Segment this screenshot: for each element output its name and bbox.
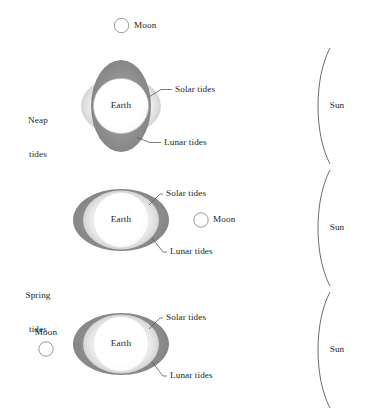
earth-label-spring-1: Earth bbox=[98, 214, 144, 225]
moon-body-neap bbox=[114, 18, 128, 32]
lunar-tides-label-spring-2: Lunar tides bbox=[170, 370, 213, 381]
moon-body-spring-1 bbox=[194, 213, 208, 227]
group-label-neap-line1: Neap bbox=[15, 115, 61, 126]
solar-tides-label-neap: Solar tides bbox=[175, 84, 215, 95]
earth-label-neap: Earth bbox=[98, 100, 144, 111]
solar-tides-label-spring-1: Solar tides bbox=[166, 188, 206, 199]
solar-tides-label-spring-2: Solar tides bbox=[166, 312, 206, 323]
earth-label-spring-2: Earth bbox=[98, 338, 144, 349]
tides-diagram: Neap tides Spring tides Moon Earth Solar… bbox=[0, 0, 367, 418]
moon-label-neap: Moon bbox=[134, 20, 156, 31]
sun-label-spring-2: Sun bbox=[322, 344, 352, 355]
group-label-neap: Neap tides bbox=[15, 92, 61, 183]
group-label-neap-line2: tides bbox=[15, 149, 61, 160]
group-label-spring-line1: Spring bbox=[10, 290, 66, 301]
lunar-tides-label-spring-1: Lunar tides bbox=[170, 246, 213, 257]
moon-label-spring-1: Moon bbox=[213, 214, 235, 225]
sun-label-neap: Sun bbox=[322, 100, 352, 111]
lunar-tides-label-neap: Lunar tides bbox=[164, 137, 207, 148]
group-label-spring: Spring tides bbox=[10, 267, 66, 358]
sun-label-spring-1: Sun bbox=[322, 222, 352, 233]
moon-label-spring-2: Moon bbox=[27, 327, 65, 338]
spring-panel-2-graphics bbox=[39, 292, 330, 408]
